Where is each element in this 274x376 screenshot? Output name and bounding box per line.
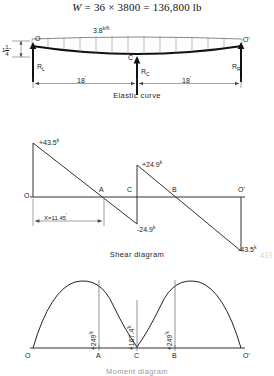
moment-value-at-b: +249'k (165, 331, 173, 350)
span-label-right: 18' (182, 76, 191, 84)
shear-axis-label-c: C (127, 186, 132, 193)
beam-caption: Elastic curve (0, 92, 274, 100)
reaction-right-label: RR (232, 63, 241, 72)
shear-value-center-min: -24.9k (137, 225, 155, 233)
moment-diagram (30, 280, 245, 351)
deflection-label: 114" (2, 44, 11, 57)
moment-axis-label-o: O (25, 352, 30, 359)
shear-x-dimension-label: X=11.45' (44, 213, 67, 221)
reaction-center-label: RC (141, 68, 150, 77)
node-label-o-beam: O (35, 35, 40, 42)
node-label-c-beam: C (128, 54, 133, 61)
shear-value-left-max: +43.5k (39, 138, 59, 146)
moment-axis-label-b: B (172, 352, 177, 359)
shear-caption: Shear diagram (0, 251, 274, 259)
moment-caption: Moment diagram (0, 368, 274, 376)
shear-axis-label-b: B (172, 186, 177, 193)
moment-value-at-a: +249'k (89, 331, 97, 350)
engineering-figure-svg (0, 0, 274, 376)
shear-diagram (30, 143, 245, 251)
shear-axis-label-o: O (24, 192, 29, 199)
load-intensity-label: 3.8k/ft (93, 26, 109, 34)
beam-diagram (12, 36, 244, 95)
moment-axis-label-c: C (134, 352, 139, 359)
shear-value-center-max: +24.9k (142, 160, 162, 168)
figure-page: W = 36 × 3800 = 136,800 lb 433 (0, 0, 274, 376)
moment-axis-label-a: A (96, 352, 101, 359)
node-label-o-prime-beam: O' (243, 36, 250, 43)
moment-axis-label-o-prime: O' (243, 352, 250, 359)
reaction-left-label: RL (37, 63, 45, 72)
moment-value-at-c: +167.4'k (127, 325, 135, 350)
shear-axis-label-o-prime: O' (238, 186, 245, 193)
shear-axis-label-a: A (99, 186, 104, 193)
span-label-left: 18' (77, 76, 86, 84)
